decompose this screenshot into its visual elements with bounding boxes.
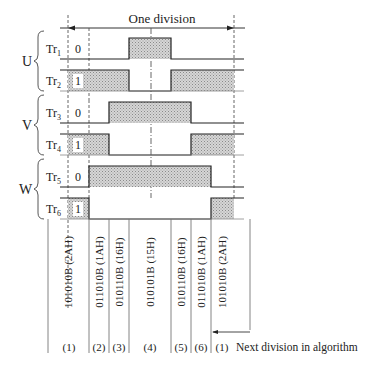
state-code-5: 010110B (16H) <box>175 237 188 306</box>
arrow-right-icon <box>227 26 234 31</box>
initial-value-tr6: 1 <box>75 202 81 216</box>
initial-value-tr5: 0 <box>75 170 81 184</box>
title-label: One division <box>129 11 196 26</box>
row-label-tr6: Tr6 <box>46 202 61 218</box>
group-label-v: V <box>22 118 32 133</box>
arrow-left-icon <box>212 330 218 334</box>
waveform-tr5 <box>60 166 244 187</box>
row-label-tr2: Tr2 <box>46 74 61 90</box>
initial-value-tr1: 0 <box>75 42 81 56</box>
row-label-tr1: Tr1 <box>46 42 61 58</box>
state-index-7: (1) <box>216 341 229 354</box>
state-code-7: 101010B (2AH) <box>216 236 229 308</box>
state-index-2: (2) <box>93 341 106 354</box>
state-index-5: (5) <box>175 341 188 354</box>
state-index-1: (1) <box>63 341 76 354</box>
row-label-tr4: Tr4 <box>46 138 61 154</box>
waveform-tr3 <box>60 102 244 123</box>
state-code-6: 011010B (1AH) <box>195 236 208 308</box>
state-index-3: (3) <box>113 341 126 354</box>
group-label-u: U <box>22 54 32 69</box>
initial-values: 0 1 0 1 0 1 <box>73 42 83 216</box>
arrow-left-icon <box>68 26 75 31</box>
waveform-tr4 <box>60 134 244 155</box>
state-code-1: 101010B (2AH) <box>62 236 75 308</box>
waveform-tr2 <box>60 70 244 91</box>
state-indices: (1) (2) (3) (4) (5) (6) (1) <box>63 341 229 354</box>
state-index-4: (4) <box>144 341 157 354</box>
group-braces <box>34 31 44 219</box>
waveform-tr6 <box>60 198 244 219</box>
one-division-dimension: One division <box>60 11 245 31</box>
state-index-6: (6) <box>195 341 208 354</box>
switching-timing-diagram: One division <box>0 0 374 369</box>
group-label-w: W <box>19 182 33 197</box>
row-label-tr5: Tr5 <box>46 170 61 186</box>
state-code-2: 011010B (1AH) <box>93 236 106 308</box>
next-division-arrow <box>212 330 250 334</box>
initial-value-tr3: 0 <box>75 106 81 120</box>
state-codes: 101010B (2AH) 011010B (1AH) 010110B (16H… <box>62 236 229 308</box>
row-labels: Tr1 Tr2 Tr3 Tr4 Tr5 Tr6 <box>46 42 61 218</box>
initial-value-tr4: 1 <box>75 138 81 152</box>
waveform-tr1 <box>60 38 244 59</box>
initial-value-tr2: 1 <box>75 74 81 88</box>
row-label-tr3: Tr3 <box>46 106 61 122</box>
state-code-4: 010101B (15H) <box>144 237 157 307</box>
state-code-3: 010110B (16H) <box>113 237 126 306</box>
next-division-label: Next division in algorithm <box>236 341 358 354</box>
